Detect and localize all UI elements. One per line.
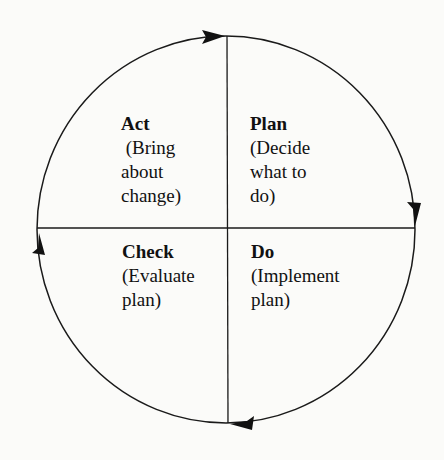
quadrant-do: Do (Implement plan) (251, 240, 340, 312)
quadrant-plan-title: Plan (250, 112, 310, 136)
quadrant-check-description: (Evaluate plan) (122, 264, 195, 312)
quadrant-plan-description: (Decide what to do) (250, 136, 310, 208)
cycle-circle (37, 36, 415, 423)
quadrant-check: Check (Evaluate plan) (122, 240, 195, 312)
quadrant-act-description: (Bring about change) (121, 136, 181, 208)
quadrant-check-title: Check (122, 240, 195, 264)
quadrant-do-title: Do (251, 240, 340, 264)
arrow-left-icon (32, 233, 45, 255)
arrow-right-icon (407, 202, 421, 226)
pdca-cycle-diagram (0, 0, 444, 460)
quadrant-act: Act (Bring about change) (121, 112, 181, 208)
vertical-divider (227, 36, 228, 423)
quadrant-act-title: Act (121, 112, 181, 136)
quadrant-do-description: (Implement plan) (251, 264, 340, 312)
quadrant-plan: Plan (Decide what to do) (250, 112, 310, 208)
